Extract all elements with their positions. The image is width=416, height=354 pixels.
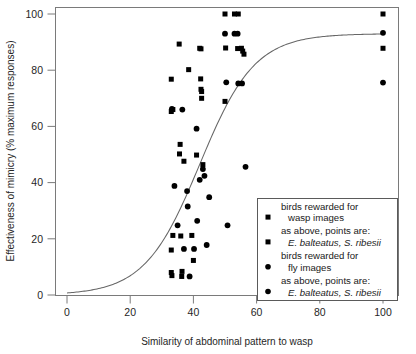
y-tick-label: 20 [31,233,43,245]
data-point-circle [204,242,210,248]
data-point-circle [185,204,191,210]
legend-label: birds rewarded for [281,250,359,261]
legend-marker-circle [265,289,271,295]
data-point-square [223,12,228,17]
data-point-square [169,273,174,278]
data-point-square [191,258,196,263]
legend-label: as above, points are: [281,225,370,236]
data-point-square [177,151,182,156]
x-tick-label: 40 [188,306,200,318]
data-point-square [236,12,241,17]
data-point-circle [191,246,197,252]
y-tick-label: 0 [37,289,43,301]
data-point-circle [225,222,231,228]
legend: birds rewarded forwasp imagesas above, p… [258,199,398,301]
data-point-square [198,76,203,81]
scatter-plot-figure: 020406080100 020406080100 Similarity of … [0,0,416,354]
data-point-circle [200,166,206,172]
x-tick-label: 20 [124,306,136,318]
y-axis-tick-labels: 020406080100 [25,8,43,301]
legend-marker-square [266,239,271,244]
legend-label: fly images [288,262,331,273]
plot-canvas: 020406080100 020406080100 Similarity of … [0,0,416,354]
data-point-square [170,233,175,238]
legend-label: as above, points are: [281,275,370,286]
data-point-circle [206,194,212,200]
x-tick-label: 100 [374,306,392,318]
data-point-circle [197,177,203,183]
data-point-square [381,12,386,17]
data-point-circle [172,183,178,189]
x-axis-title: Similarity of abdominal pattern to wasp [141,336,313,347]
data-point-circle [169,106,175,112]
data-point-square [178,142,183,147]
data-point-circle [175,222,181,228]
data-point-square [169,77,174,82]
y-axis-ticks [48,14,56,295]
data-point-circle [380,30,386,36]
data-point-circle [194,218,200,224]
data-point-circle [202,173,208,179]
data-point-square [194,153,199,158]
data-point-circle [181,246,187,252]
y-axis-title: Effectiveness of mimicry (% maximum resp… [5,41,16,262]
data-point-circle [380,80,386,86]
legend-marker-circle [265,264,271,270]
y-tick-label: 80 [31,64,43,76]
data-point-square [198,46,203,51]
data-point-square [186,67,191,72]
x-tick-label: 80 [314,306,326,318]
data-point-square [241,52,246,57]
data-point-square [180,269,185,274]
legend-label-species: E. balteatus, S. ribesii [288,237,382,248]
data-point-circle [194,126,200,132]
data-point-circle [222,31,228,37]
legend-label: birds rewarded for [281,201,359,212]
data-point-square [177,42,182,47]
y-tick-label: 100 [25,8,43,20]
data-point-square [223,99,228,104]
legend-label-species: E. balteatus, S. ribesii [288,287,382,298]
data-point-circle [184,188,190,194]
data-point-square [381,46,386,51]
data-point-circle [235,31,241,37]
data-point-circle [243,164,249,170]
data-point-circle [187,274,193,280]
data-point-circle [223,79,229,85]
data-point-square [178,233,183,238]
legend-marker-square [266,215,271,220]
data-point-square [189,233,194,238]
x-tick-label: 0 [64,306,70,318]
data-point-square [223,46,228,51]
y-tick-label: 60 [31,120,43,132]
data-point-square [181,159,186,164]
x-tick-label: 60 [251,306,263,318]
legend-label: wasp images [287,212,344,223]
data-point-square [199,96,204,101]
data-point-square [179,274,184,279]
y-tick-label: 40 [31,176,43,188]
data-point-circle [179,107,185,113]
data-point-square [169,248,174,253]
data-point-circle [239,81,245,87]
x-axis-tick-labels: 020406080100 [64,306,392,318]
data-point-square [198,87,203,92]
